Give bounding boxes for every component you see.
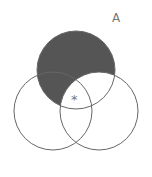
venn-diagram: A * [0, 0, 152, 177]
circle-c [60, 72, 138, 150]
label-a: A [112, 11, 121, 25]
region-marker: * [71, 92, 78, 107]
